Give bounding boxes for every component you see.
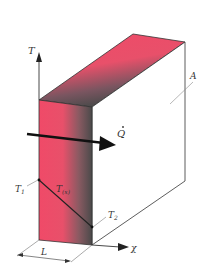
thickness-label: L	[40, 247, 47, 257]
wall-front-face	[39, 100, 92, 245]
x-axis	[92, 245, 120, 247]
t1-label: T1	[15, 184, 25, 195]
thickness-extension-right	[71, 245, 92, 262]
t1-leader-line	[27, 180, 38, 186]
thickness-arrow-right-icon	[65, 259, 71, 263]
thickness-extension-left	[17, 240, 39, 256]
t2-point	[91, 226, 94, 229]
heat-flow-dot-icon	[122, 126, 124, 128]
x-axis-arrow-icon	[118, 243, 129, 251]
plane-wall-diagram: T Q A T1 T(x) T2 χ L	[0, 0, 207, 278]
temperature-axis-arrow-icon	[36, 52, 42, 62]
temperature-axis-label: T	[28, 45, 36, 56]
x-axis-label: χ	[130, 243, 137, 253]
heat-flow-label: Q	[117, 128, 125, 139]
t1-point	[38, 179, 41, 182]
area-label: A	[189, 71, 197, 81]
